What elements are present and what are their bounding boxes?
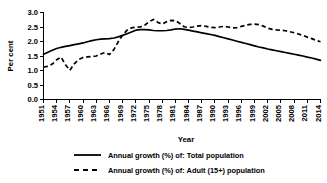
y-tick-label: 1.5 [27, 52, 38, 61]
x-tick-label: 1969 [116, 105, 125, 122]
y-tick-label: 0.0 [27, 95, 38, 104]
x-tick-label: 2008 [287, 105, 296, 122]
x-tick-label: 1981 [168, 104, 177, 122]
y-axis-title: Per cent [6, 40, 15, 71]
x-tick-label: 1957 [63, 105, 72, 122]
chart-figure: 0.00.51.01.52.02.53.0 195119541957196019… [0, 0, 327, 183]
x-tick-label: 1984 [182, 104, 191, 122]
x-tick-label: 1990 [208, 105, 217, 122]
x-tick-label: 1966 [102, 105, 111, 122]
y-tick-label: 2.5 [27, 23, 38, 32]
series-line-total-population [44, 29, 321, 61]
y-tick-label: 0.5 [27, 81, 38, 90]
x-tick-label: 1972 [129, 105, 138, 122]
y-tick-label: 1.0 [27, 66, 38, 75]
x-tick-label: 1999 [248, 105, 257, 122]
x-axis-tick-labels: 1951195419571960196319661969197219751978… [37, 104, 323, 122]
x-tick-label: 1963 [89, 105, 98, 122]
x-tick-label: 1987 [195, 105, 204, 122]
x-tick-label: 2002 [261, 105, 270, 122]
x-tick-label: 1960 [76, 105, 85, 122]
y-axis-tick-labels: 0.00.51.01.52.02.53.0 [27, 8, 38, 104]
legend-label-adult-population: Annual growth (%) of: Adult (15+) popula… [108, 166, 265, 175]
x-tick-label: 1975 [142, 104, 151, 122]
x-tick-label: 1993 [221, 105, 230, 122]
line-chart: 0.00.51.01.52.02.53.0 195119541957196019… [0, 0, 327, 183]
x-tick-label: 1978 [155, 105, 164, 122]
x-tick-label: 2011 [300, 104, 309, 121]
x-tick-label: 1996 [234, 105, 243, 122]
y-tick-label: 3.0 [27, 8, 38, 17]
x-axis-title: Year [178, 135, 194, 144]
x-tick-label: 2014 [314, 104, 323, 122]
series-line-adult-population [44, 19, 321, 70]
x-tick-label: 1954 [50, 104, 59, 122]
y-tick-label: 2.0 [27, 37, 38, 46]
legend-label-total-population: Annual growth (%) of: Total population [108, 151, 244, 160]
x-tick-label: 2005 [274, 104, 283, 122]
x-tick-label: 1951 [37, 104, 46, 122]
chart-legend: Annual growth (%) of: Total population A… [74, 151, 265, 175]
